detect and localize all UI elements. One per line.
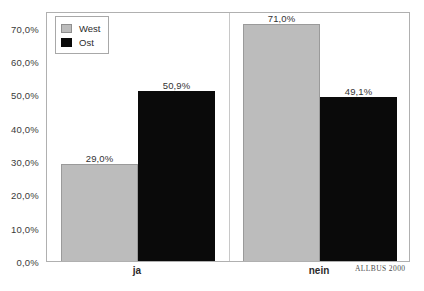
bar-ja-west xyxy=(61,164,138,261)
bar-chart-figure: 0,0%10,0%20,0%30,0%40,0%50,0%60,0%70,0% … xyxy=(0,0,424,291)
x-axis-category-ja: ja xyxy=(133,265,141,276)
legend-item-west: West xyxy=(61,21,100,35)
bar-value-label: 49,1% xyxy=(345,86,372,97)
bar-nein-west xyxy=(243,24,320,261)
y-axis-tick-label: 20,0% xyxy=(11,190,39,201)
source-annotation: ALLBUS 2000 xyxy=(355,264,405,273)
x-axis-category-nein: nein xyxy=(309,265,330,276)
y-axis-tick-label: 40,0% xyxy=(11,123,39,134)
y-axis-tick-label: 70,0% xyxy=(11,23,39,34)
bar-value-label: 71,0% xyxy=(268,13,295,24)
y-axis-tick-label: 30,0% xyxy=(11,157,39,168)
ost-swatch-icon xyxy=(61,38,72,47)
bar-nein-ost xyxy=(320,97,397,261)
legend-label-ost: Ost xyxy=(79,37,94,48)
legend-item-ost: Ost xyxy=(61,35,100,49)
y-axis-tick-label: 50,0% xyxy=(11,90,39,101)
bar-ja-ost xyxy=(138,91,215,261)
legend-label-west: West xyxy=(79,23,100,34)
chart-legend: West Ost xyxy=(55,16,109,54)
y-axis-tick-label: 10,0% xyxy=(11,223,39,234)
group-separator xyxy=(229,13,230,261)
y-axis: 0,0%10,0%20,0%30,0%40,0%50,0%60,0%70,0% xyxy=(0,0,46,291)
y-axis-tick-label: 60,0% xyxy=(11,57,39,68)
y-axis-tick-label: 0,0% xyxy=(17,257,39,268)
bar-value-label: 50,9% xyxy=(163,80,190,91)
bar-value-label: 29,0% xyxy=(86,153,113,164)
west-swatch-icon xyxy=(61,24,72,33)
